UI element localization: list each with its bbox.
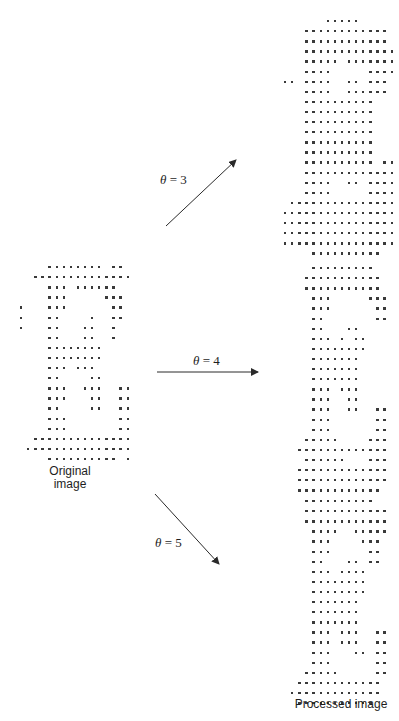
pixel-dot xyxy=(383,192,385,194)
pixel-dot xyxy=(391,50,393,52)
pixel-dot xyxy=(362,30,364,32)
pixel-dot xyxy=(320,398,322,400)
pixel-dot xyxy=(376,277,378,279)
pixel-dot xyxy=(327,71,329,73)
pixel-dot xyxy=(334,621,336,623)
pixel-dot xyxy=(312,328,314,330)
pixel-dot xyxy=(320,30,322,32)
pixel-dot xyxy=(376,449,378,451)
pixel-dot xyxy=(341,631,343,633)
pixel-dot xyxy=(312,30,314,32)
pixel-dot xyxy=(320,459,322,461)
pixel-dot xyxy=(77,458,79,460)
pixel-dot xyxy=(320,408,322,410)
pixel-dot xyxy=(327,50,329,52)
pixel-dot xyxy=(312,131,314,133)
pixel-dot xyxy=(369,267,371,269)
pixel-dot xyxy=(334,672,336,674)
pixel-dot xyxy=(334,151,336,153)
pixel-dot xyxy=(341,277,343,279)
pixel-dot xyxy=(327,489,329,491)
pixel-dot xyxy=(334,469,336,471)
pixel-dot xyxy=(334,611,336,613)
pixel-dot xyxy=(355,398,357,400)
pixel-dot xyxy=(383,81,385,83)
pixel-dot xyxy=(376,672,378,674)
pixel-dot xyxy=(320,242,322,244)
pixel-dot xyxy=(334,530,336,532)
pixel-dot xyxy=(355,611,357,613)
pixel-dot xyxy=(320,378,322,380)
pixel-dot xyxy=(105,276,107,278)
pixel-dot xyxy=(41,276,43,278)
pixel-dot xyxy=(348,121,350,123)
pixel-dot xyxy=(48,286,50,288)
pixel-dot xyxy=(312,672,314,674)
pixel-dot xyxy=(305,172,307,174)
pixel-dot xyxy=(305,439,307,441)
pixel-dot xyxy=(327,408,329,410)
pixel-dot xyxy=(284,222,286,224)
pixel-dot xyxy=(355,338,357,340)
pixel-dot xyxy=(327,662,329,664)
pixel-dot xyxy=(105,438,107,440)
pixel-dot xyxy=(327,469,329,471)
pixel-dot xyxy=(119,296,121,298)
pixel-dot xyxy=(348,111,350,113)
pixel-dot xyxy=(48,428,50,430)
pixel-dot xyxy=(355,172,357,174)
pixel-dot xyxy=(327,20,329,22)
pixel-dot xyxy=(305,277,307,279)
pixel-dot xyxy=(327,40,329,42)
pixel-dot xyxy=(312,439,314,441)
pixel-dot xyxy=(348,202,350,204)
pixel-dot xyxy=(48,448,50,450)
pixel-dot xyxy=(341,692,343,694)
pixel-dot xyxy=(341,479,343,481)
pixel-dot xyxy=(383,212,385,214)
pixel-dot xyxy=(305,469,307,471)
pixel-dot xyxy=(327,611,329,613)
pixel-dot xyxy=(56,418,58,420)
pixel-dot xyxy=(305,682,307,684)
pixel-dot xyxy=(291,242,293,244)
pixel-dot xyxy=(98,397,100,399)
pixel-dot xyxy=(369,287,371,289)
pixel-dot xyxy=(56,448,58,450)
pixel-dot xyxy=(48,347,50,349)
pixel-dot xyxy=(355,60,357,62)
pixel-dot xyxy=(305,71,307,73)
pixel-dot xyxy=(334,601,336,603)
pixel-dot xyxy=(383,71,385,73)
pixel-dot xyxy=(327,479,329,481)
pixel-dot xyxy=(320,267,322,269)
pixel-dot xyxy=(383,439,385,441)
pixel-dot xyxy=(320,439,322,441)
pixel-dot xyxy=(334,449,336,451)
pixel-dot xyxy=(355,242,357,244)
pixel-dot xyxy=(48,367,50,369)
pixel-dot xyxy=(327,520,329,522)
pixel-dot xyxy=(376,631,378,633)
pixel-dot xyxy=(320,111,322,113)
pixel-dot xyxy=(341,232,343,234)
pixel-dot xyxy=(320,692,322,694)
pixel-dot xyxy=(63,367,65,369)
pixel-dot xyxy=(312,40,314,42)
pixel-dot xyxy=(348,40,350,42)
pixel-dot xyxy=(383,631,385,633)
pixel-dot xyxy=(327,530,329,532)
pixel-dot xyxy=(341,358,343,360)
pixel-dot xyxy=(348,60,350,62)
pixel-dot xyxy=(383,469,385,471)
pixel-dot xyxy=(369,151,371,153)
pixel-dot xyxy=(56,357,58,359)
pixel-dot xyxy=(91,387,93,389)
pixel-dot xyxy=(376,50,378,52)
pixel-dot xyxy=(341,202,343,204)
pixel-dot xyxy=(48,407,50,409)
pixel-dot xyxy=(369,40,371,42)
pixel-dot xyxy=(355,151,357,153)
pixel-dot xyxy=(348,81,350,83)
pixel-dot xyxy=(312,121,314,123)
